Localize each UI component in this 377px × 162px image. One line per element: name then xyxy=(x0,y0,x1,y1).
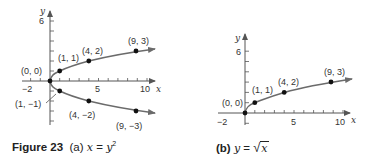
label-a-4-2: (4, 2) xyxy=(82,46,103,56)
point-b-9-3 xyxy=(329,80,334,85)
figure-number: Figure 23 xyxy=(12,141,63,153)
chart-a-x-axis-label: x xyxy=(156,84,161,94)
chart-b-x-tick-10: 10 xyxy=(335,117,345,127)
caption-a-prefix: (a) xyxy=(70,141,84,153)
caption-a-exponent: 2 xyxy=(112,140,116,147)
point-a-4-2 xyxy=(86,59,91,64)
label-a-4-m2: (4, −2) xyxy=(69,110,95,120)
point-a-1-1 xyxy=(57,69,62,74)
label-a-1-1: (1, 1) xyxy=(58,53,79,63)
chart-b: y 6 −2 5 10 x (0, 0) (1, 1) (4, 2) (9, 3… xyxy=(217,33,356,127)
point-a-0-0 xyxy=(48,79,53,84)
chart-b-x-tick-5: 5 xyxy=(291,117,296,127)
point-a-9-m3 xyxy=(134,109,139,114)
chart-b-y-tick-6: 6 xyxy=(236,47,241,57)
caption-a: Figure 23 (a) x = y2 xyxy=(12,140,116,154)
caption-b-prefix: (b) xyxy=(216,142,231,154)
chart-a-y-axis-label: y xyxy=(39,6,46,16)
point-a-9-3 xyxy=(134,49,139,54)
chart-a: y 6 −2 5 10 x (0, 0) (1, 1) (4, 2) (9, 3… xyxy=(15,6,161,131)
chart-a-leader-1-m1 xyxy=(46,94,56,103)
label-b-9-3: (9, 3) xyxy=(324,67,345,77)
chart-a-x-tick-10: 10 xyxy=(140,84,150,94)
point-b-0-0 xyxy=(243,111,248,116)
point-b-4-2 xyxy=(282,90,287,95)
chart-a-y-ticks xyxy=(50,21,54,121)
point-b-1-1 xyxy=(252,100,257,105)
label-a-1-m1: (1, −1) xyxy=(15,99,41,109)
chart-a-x-tick-m2: −2 xyxy=(22,84,32,94)
label-a-9-3: (9, 3) xyxy=(128,36,149,46)
point-a-1-m1 xyxy=(57,89,62,94)
chart-a-y-tick-6: 6 xyxy=(39,16,44,26)
chart-b-y-axis-label: y xyxy=(234,33,241,43)
chart-b-x-tick-m2: −2 xyxy=(217,117,227,127)
label-b-0-0: (0, 0) xyxy=(222,98,243,108)
caption-b-rhs: x xyxy=(260,141,268,155)
chart-a-x-tick-5: 5 xyxy=(95,84,100,94)
caption-b: (b) y = √x xyxy=(216,140,269,155)
label-b-4-2: (4, 2) xyxy=(278,77,299,87)
chart-b-x-axis-label: x xyxy=(351,115,356,125)
label-b-1-1: (1, 1) xyxy=(252,85,273,95)
point-a-4-m2 xyxy=(86,99,91,104)
label-a-0-0: (0, 0) xyxy=(21,66,42,76)
label-a-9-m3: (9, −3) xyxy=(116,121,142,131)
caption-b-eq: = xyxy=(240,142,253,154)
figure-canvas: y 6 −2 5 10 x (0, 0) (1, 1) (4, 2) (9, 3… xyxy=(0,0,377,162)
caption-a-eq: = xyxy=(93,141,106,153)
